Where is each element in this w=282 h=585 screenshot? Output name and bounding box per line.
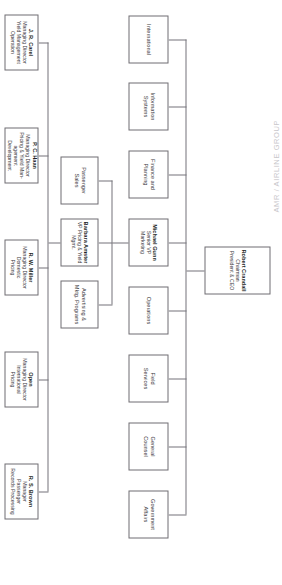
node-information-systems-line-1: Information: [148, 92, 155, 120]
connector-general-counsel-drop: [168, 446, 186, 447]
connector-level2-bus: [185, 39, 186, 514]
connector-brown-drop: [38, 491, 48, 492]
node-miller-line-2: Domestic: [15, 256, 21, 278]
connector-gunn-drop: [168, 242, 186, 243]
connector-level4-bus: [47, 42, 48, 491]
node-crandall-name: Robert Crandall: [240, 249, 247, 291]
connector-gunn-stem: [112, 242, 128, 243]
node-open-intl-line-3: Pricing: [9, 371, 15, 387]
node-operations[interactable]: Operations: [128, 286, 168, 334]
connector-crandall-stem: [186, 270, 204, 271]
node-finance-planning-line-1: Finance and: [148, 159, 155, 190]
rotated-page-wrapper: AMR / AIRLINE GROUP Robert Crandall Chai…: [0, 0, 282, 585]
node-government-affairs-line-1: Government: [148, 499, 155, 530]
node-miller[interactable]: R. W. Miller Managing Director Domestic …: [4, 239, 38, 295]
node-crandall-line-2: President & CEO: [228, 250, 234, 290]
node-field-services-line-1: Field: [148, 372, 155, 384]
connector-international-drop: [168, 39, 186, 40]
connector-miller-drop: [38, 267, 48, 268]
node-general-counsel-line-2: Counsel: [141, 436, 148, 457]
connector-open-intl-drop: [38, 379, 48, 380]
node-amster-name: Barbara Amster: [82, 221, 89, 263]
node-crandall[interactable]: Robert Crandall Chairman President & CEO: [204, 246, 270, 294]
connector-advertising-drop: [98, 304, 112, 305]
node-haan-line-3: agement Development: [5, 130, 17, 180]
node-carel[interactable]: J. R. Carel Managing Director Yield Mana…: [4, 14, 38, 70]
connector-finance-planning-drop: [168, 174, 186, 175]
connector-field-services-drop: [168, 378, 186, 379]
node-miller-name: R. W. Miller: [27, 252, 34, 282]
node-gunn-line-1: Senior VP: [145, 230, 151, 253]
node-carel-line-1: Managing Director: [21, 21, 27, 63]
node-finance-planning[interactable]: Finance and Planning: [128, 150, 168, 198]
node-operations-line-1: Operations: [145, 296, 152, 323]
node-advertising[interactable]: Advertising & Mktg. Programs: [60, 280, 98, 328]
connector-amster-stem: [48, 242, 60, 243]
node-information-systems-line-2: Systems: [141, 95, 148, 116]
node-carel-line-2: Yield Management: [15, 20, 21, 63]
node-general-counsel[interactable]: General Counsel: [128, 422, 168, 470]
node-haan-name: P. C. Haan: [30, 142, 37, 169]
node-open-intl-name: Open: [27, 372, 34, 386]
org-chart-canvas: AMR / AIRLINE GROUP Robert Crandall Chai…: [0, 0, 282, 585]
node-brown[interactable]: R. S. Brown Manager Passenger Records Pr…: [4, 463, 38, 519]
node-general-counsel-line-1: General: [148, 436, 155, 456]
connector-government-affairs-drop: [168, 514, 186, 515]
node-miller-line-3: Pricing: [9, 259, 15, 275]
node-miller-line-1: Managing Director: [21, 246, 27, 288]
node-haan-line-2: Pricing & Yield Man-: [18, 132, 24, 179]
node-amster[interactable]: Barbara Amster VP Pricing & Yield Mgmt.: [60, 218, 98, 266]
connector-passenger-sales-drop: [98, 180, 112, 181]
node-open-intl-line-2: International: [15, 365, 21, 394]
node-brown-line-3: Records Processing: [9, 468, 15, 514]
node-passenger-sales[interactable]: Passenger Sales: [60, 156, 98, 204]
node-international[interactable]: International: [128, 15, 168, 63]
node-passenger-sales-line-1: Passenger: [79, 167, 86, 194]
node-haan[interactable]: P. C. Haan Managing Director Pricing & Y…: [4, 127, 38, 183]
node-information-systems[interactable]: Information Systems: [128, 82, 168, 130]
node-gunn-name: Michael Gunn: [151, 224, 158, 261]
node-field-services[interactable]: Field Services: [128, 354, 168, 402]
node-open-intl-line-1: Managing Director: [21, 358, 27, 400]
node-field-services-line-2: Services: [141, 367, 148, 388]
node-gunn-line-2: Marketing: [139, 231, 145, 254]
node-open-intl[interactable]: Open Managing Director International Pri…: [4, 351, 38, 407]
node-finance-planning-line-2: Planning: [141, 163, 148, 185]
connector-operations-drop: [168, 310, 186, 311]
node-carel-name: J. R. Carel: [27, 28, 34, 55]
node-government-affairs[interactable]: Government Affairs: [128, 490, 168, 538]
node-brown-line-1: Manager: [21, 481, 27, 501]
node-international-line-1: International: [145, 24, 152, 55]
page-header-text: AMR / AIRLINE GROUP: [271, 12, 280, 212]
node-advertising-line-1: Advertising &: [79, 288, 86, 321]
node-government-affairs-line-2: Affairs: [141, 506, 148, 522]
node-amster-line-2: Mgmt.: [70, 235, 76, 249]
node-carel-line-3: Operation: [9, 31, 15, 54]
node-amster-line-1: VP Pricing & Yield: [76, 221, 82, 263]
connector-haan-drop: [38, 155, 48, 156]
node-haan-line-1: Managing Director: [24, 134, 30, 176]
connector-information-systems-drop: [168, 106, 186, 107]
connector-amster-drop: [98, 242, 112, 243]
node-advertising-line-2: Mktg. Programs: [72, 284, 79, 323]
node-brown-line-2: Passenger: [15, 479, 21, 504]
node-brown-name: R. S. Brown: [27, 475, 34, 506]
node-passenger-sales-line-2: Sales: [72, 173, 79, 187]
node-gunn[interactable]: Michael Gunn Senior VP Marketing: [128, 218, 168, 266]
connector-carel-drop: [38, 42, 48, 43]
node-crandall-line-1: Chairman: [234, 259, 240, 282]
